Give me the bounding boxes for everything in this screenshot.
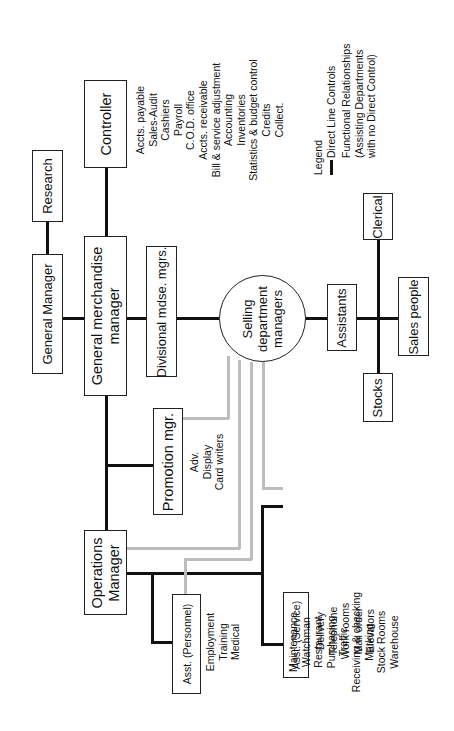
line-service-h [261, 505, 283, 508]
node-controller: Controller [84, 80, 127, 168]
line-gmm-operations [105, 396, 108, 530]
line-controller-gmm [105, 168, 108, 236]
node-divisional: Divisional mdse. mgrs. [146, 246, 177, 377]
node-stocks: Stocks [363, 373, 393, 422]
fline-service-v [262, 362, 265, 489]
line-promotion [105, 464, 153, 467]
fline-service-h [262, 487, 283, 490]
promotion-functions-list: Adv. Display Card writers [188, 427, 226, 497]
legend-title: Legend [312, 44, 325, 175]
fline-operations-v [238, 360, 241, 549]
controller-functions-list: Accts. payable Sales-Audit Cashiers Payr… [134, 50, 285, 190]
legend-functional: Functional Relationships (Assisting Depa… [340, 44, 378, 175]
fline-personnel-h [184, 558, 252, 561]
node-general-merchandise-manager: General merchandise manager [84, 236, 127, 396]
fline-personnel-v1 [250, 362, 253, 560]
line-divisional-selling [177, 317, 219, 320]
selling-label: Selling department managers [240, 286, 285, 352]
node-research: Research [32, 150, 63, 222]
fline-promotion-h [183, 417, 229, 420]
gmm-label: General merchandise manager [89, 247, 122, 386]
node-general-manager: General Manager [32, 254, 63, 374]
line-research-gm [46, 222, 49, 254]
node-asst-personnel: Asst. (Personnel) [172, 594, 201, 694]
direct-line-swatch [330, 160, 333, 175]
legend: Legend Direct Line Controls Functional R… [312, 44, 378, 175]
node-promotion-manager: Promotion mgr. [153, 408, 183, 515]
fline-promotion-v [227, 356, 230, 419]
legend-direct: Direct Line Controls [325, 44, 338, 175]
node-selling-department-managers: Selling department managers [219, 275, 306, 362]
node-operations-manager: Operations Manager [84, 530, 127, 615]
line-gm-gmm [63, 317, 84, 320]
fline-personnel-v2 [184, 558, 187, 594]
node-sales-people: Sales people [398, 277, 429, 356]
line-maintenance-h [261, 643, 283, 646]
line-selling-assistants [305, 317, 327, 320]
node-assistants: Assistants [327, 284, 357, 351]
line-personnel-v [151, 572, 154, 643]
line-personnel-h [151, 641, 172, 644]
line-clerical-stocks [377, 240, 380, 373]
line-operations-main [127, 572, 262, 575]
personnel-functions-list: Employment Training Medical [204, 604, 242, 680]
operations-label: Operations Manager [89, 537, 122, 608]
node-clerical: Clerical [363, 193, 393, 240]
fline-operations-h [127, 547, 240, 550]
line-ops-vertical [261, 505, 264, 646]
line-gmm-divisional [127, 317, 146, 320]
operations-functions-list: Maintenance Watchman Restaurant Purchasi… [287, 587, 400, 697]
